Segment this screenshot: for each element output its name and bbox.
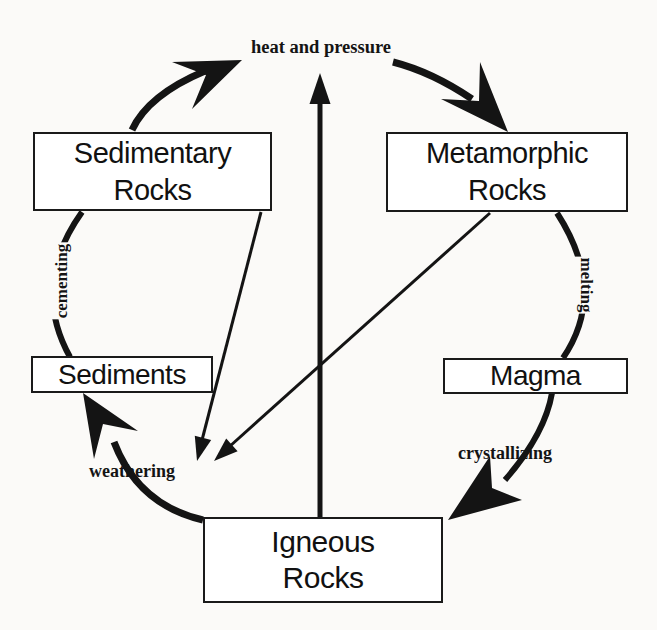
rock-cycle-diagram: Sedimentary Rocks Metamorphic Rocks Sedi… bbox=[0, 0, 657, 630]
weathering-label: weathering bbox=[62, 461, 202, 482]
crystallizing-arc bbox=[505, 393, 552, 480]
sedimentary-to-weathering-arrow bbox=[195, 212, 261, 461]
igneous-rocks-node: Igneous Rocks bbox=[203, 517, 443, 603]
igneous-to-heat-vertical-arrow bbox=[310, 73, 331, 517]
metamorphic-rocks-node: Metamorphic Rocks bbox=[386, 132, 628, 212]
sedimentary-rocks-label-line1: Sedimentary bbox=[74, 135, 231, 172]
weathering-arrow bbox=[83, 393, 203, 520]
sedimentary-to-heat-arc bbox=[132, 71, 205, 130]
sediments-node: Sediments bbox=[31, 356, 213, 393]
sedimentary-to-weathering-arrowhead-icon bbox=[195, 436, 211, 461]
weathering-arrowhead-icon bbox=[83, 393, 138, 459]
igneous-rocks-label-line2: Rocks bbox=[283, 560, 364, 596]
sedimentary-to-weathering-line bbox=[201, 212, 261, 444]
metamorphic-to-weathering-arrow bbox=[214, 213, 490, 461]
sedimentary-rocks-node: Sedimentary Rocks bbox=[33, 132, 272, 211]
sediments-label: Sediments bbox=[58, 358, 186, 391]
heat-to-metamorphic-arrowhead-icon bbox=[441, 62, 508, 132]
vertical-arrowhead-icon bbox=[310, 73, 331, 104]
magma-node: Magma bbox=[443, 358, 628, 394]
metamorphic-to-weathering-line bbox=[229, 213, 490, 447]
igneous-rocks-label-line1: Igneous bbox=[271, 524, 374, 560]
metamorphic-rocks-label-line2: Rocks bbox=[468, 172, 546, 209]
heat-to-metamorphic-arrow bbox=[393, 62, 508, 132]
cementing-label: cementing bbox=[49, 243, 75, 320]
metamorphic-rocks-label-line1: Metamorphic bbox=[426, 135, 588, 172]
heat-and-pressure-label: heat and pressure bbox=[231, 37, 411, 58]
heat-to-metamorphic-arc bbox=[393, 62, 472, 99]
crystallizing-arrowhead-icon bbox=[448, 456, 522, 520]
magma-label: Magma bbox=[490, 360, 581, 392]
sedimentary-to-heat-arrow bbox=[132, 60, 242, 130]
melting-label: melting bbox=[573, 257, 599, 314]
crystallizing-label: crystallizing bbox=[433, 443, 577, 464]
sedimentary-rocks-label-line2: Rocks bbox=[113, 172, 191, 209]
